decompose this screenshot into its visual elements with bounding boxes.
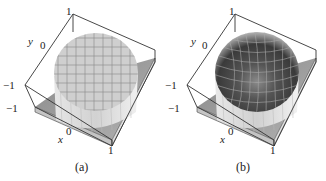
x-tick-right: 1	[108, 145, 114, 156]
y-tick-mid: 0	[202, 40, 208, 51]
y-tick-bottom: −1	[3, 80, 15, 91]
panel-a: 1 y 0 −1 −1 0 x 1 (a)	[0, 0, 163, 181]
y-axis-label: y	[28, 36, 33, 47]
panel-caption: (b)	[236, 161, 250, 173]
y-tick-top: 1	[66, 6, 72, 17]
plot-3d-bowl	[164, 0, 326, 181]
x-axis-label: x	[220, 134, 225, 145]
x-tick-mid: 0	[66, 126, 72, 137]
y-axis-label: y	[191, 36, 196, 47]
plot-3d-cylinder	[0, 0, 163, 181]
y-tick-bottom: −1	[165, 80, 177, 91]
panel-caption: (a)	[75, 161, 88, 173]
x-tick-left: −1	[6, 103, 18, 114]
x-tick-mid: 0	[228, 126, 234, 137]
x-tick-right: 1	[270, 145, 276, 156]
plateau-disk	[54, 33, 138, 111]
x-tick-left: −1	[168, 103, 180, 114]
panel-b: 1 y 0 −1 −1 0 x 1 (b)	[164, 0, 326, 181]
y-tick-mid: 0	[40, 40, 46, 51]
x-axis-label: x	[58, 134, 63, 145]
bowl-surface	[215, 32, 299, 112]
y-tick-top: 1	[229, 6, 235, 17]
